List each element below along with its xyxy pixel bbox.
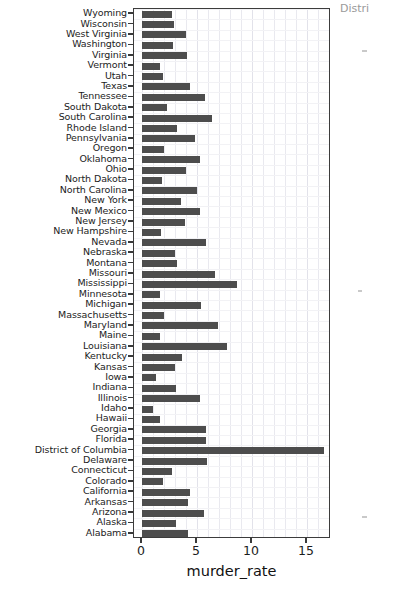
y-axis-tick-label: Wisconsin (0, 19, 127, 29)
y-axis-tick-label: South Carolina (0, 112, 127, 122)
y-axis-tick-mark (128, 407, 133, 409)
vertical-gridline (329, 9, 330, 537)
y-axis-tick-label: Indiana (0, 382, 127, 392)
bar (142, 520, 176, 527)
y-axis-tick-mark (128, 220, 133, 222)
bar (142, 510, 204, 517)
y-axis-tick-label: New Mexico (0, 206, 127, 216)
bar (142, 302, 201, 309)
bar (142, 135, 195, 142)
x-axis-tick-label: 0 (137, 544, 145, 558)
bar (142, 187, 197, 194)
horizontal-gridline (134, 227, 329, 228)
bar (142, 364, 175, 371)
y-axis-tick-label: Missouri (0, 268, 127, 278)
y-axis-tick-label: North Carolina (0, 185, 127, 195)
horizontal-gridline (134, 373, 329, 374)
bar (142, 426, 206, 433)
vertical-gridline (219, 9, 220, 537)
bar (142, 416, 160, 423)
y-axis-tick-label: Florida (0, 434, 127, 444)
bar (142, 146, 164, 153)
y-axis-tick-mark (128, 449, 133, 451)
bar (142, 458, 207, 465)
y-axis-tick-label: Virginia (0, 50, 127, 60)
bar (142, 208, 200, 215)
y-axis-tick-mark (128, 168, 133, 170)
bar (142, 489, 190, 496)
y-axis-tick-mark (128, 522, 133, 524)
y-axis-tick-mark (128, 283, 133, 285)
y-axis-tick-label: New Jersey (0, 216, 127, 226)
y-axis-tick-mark (128, 511, 133, 513)
bar (142, 115, 212, 122)
bar (142, 343, 227, 350)
y-axis-tick-mark (128, 179, 133, 181)
bar (142, 167, 186, 174)
horizontal-gridline (134, 175, 329, 176)
y-axis-tick-label: North Dakota (0, 174, 127, 184)
x-axis-tick-label: 10 (243, 544, 259, 558)
y-axis-tick-mark (128, 106, 133, 108)
y-axis-tick-mark (128, 397, 133, 399)
bar (142, 271, 215, 278)
vertical-gridline (296, 9, 297, 537)
x-axis-tick-label: 15 (298, 544, 314, 558)
vertical-gridline (307, 9, 308, 537)
y-axis-tick-mark (128, 75, 133, 77)
y-axis-tick-mark (128, 293, 133, 295)
x-axis-title: murder_rate (133, 563, 330, 580)
y-axis-tick-label: Colorado (0, 476, 127, 486)
y-axis-tick-mark (128, 33, 133, 35)
bar (142, 219, 185, 226)
y-axis-tick-label: South Dakota (0, 102, 127, 112)
y-axis-tick-label: Pennsylvania (0, 133, 127, 143)
y-axis-tick-label: Connecticut (0, 465, 127, 475)
y-axis-tick-mark (128, 480, 133, 482)
y-axis-tick-label: Vermont (0, 60, 127, 70)
y-axis-tick-mark (128, 501, 133, 503)
bar (142, 406, 153, 413)
y-axis-tick-label: California (0, 486, 127, 496)
y-axis-tick-mark (128, 96, 133, 98)
y-axis-tick-label: Minnesota (0, 289, 127, 299)
y-axis-tick-mark (128, 127, 133, 129)
y-axis-tick-label: District of Columbia (0, 445, 127, 455)
y-axis-tick-label: Alabama (0, 528, 127, 538)
y-axis-tick-label: Illinois (0, 393, 127, 403)
horizontal-gridline (134, 414, 329, 415)
y-axis-tick-mark (128, 418, 133, 420)
y-axis-tick-label: Hawaii (0, 413, 127, 423)
y-axis-labels: WyomingWisconsinWest VirginiaWashingtonV… (0, 8, 127, 538)
y-axis-tick-label: West Virginia (0, 29, 127, 39)
bar (142, 63, 160, 70)
vertical-gridline (230, 9, 231, 537)
bar (142, 94, 205, 101)
y-axis-tick-mark (128, 241, 133, 243)
y-axis-tick-mark (128, 428, 133, 430)
y-axis-tick-mark (128, 376, 133, 378)
bar (142, 437, 206, 444)
y-axis-tick-mark (128, 158, 133, 160)
bar (142, 11, 172, 18)
y-axis-tick-label: Texas (0, 81, 127, 91)
y-axis-tick-mark (128, 532, 133, 534)
y-axis-tick-label: Mississippi (0, 278, 127, 288)
y-axis-tick-mark (128, 303, 133, 305)
y-axis-tick-mark (128, 345, 133, 347)
bar (142, 250, 175, 257)
bar (142, 385, 176, 392)
horizontal-gridline (134, 71, 329, 72)
bar (142, 291, 160, 298)
y-axis-tick-label: Arkansas (0, 497, 127, 507)
vertical-gridline (318, 9, 319, 537)
y-axis-tick-label: Georgia (0, 424, 127, 434)
y-axis-tick-label: Arizona (0, 507, 127, 517)
vertical-gridline (285, 9, 286, 537)
bar (142, 83, 190, 90)
y-axis-tick-label: Kentucky (0, 351, 127, 361)
y-axis-tick-label: Idaho (0, 403, 127, 413)
y-axis-tick-mark (128, 387, 133, 389)
y-axis-tick-label: Delaware (0, 455, 127, 465)
vertical-gridline (263, 9, 264, 537)
